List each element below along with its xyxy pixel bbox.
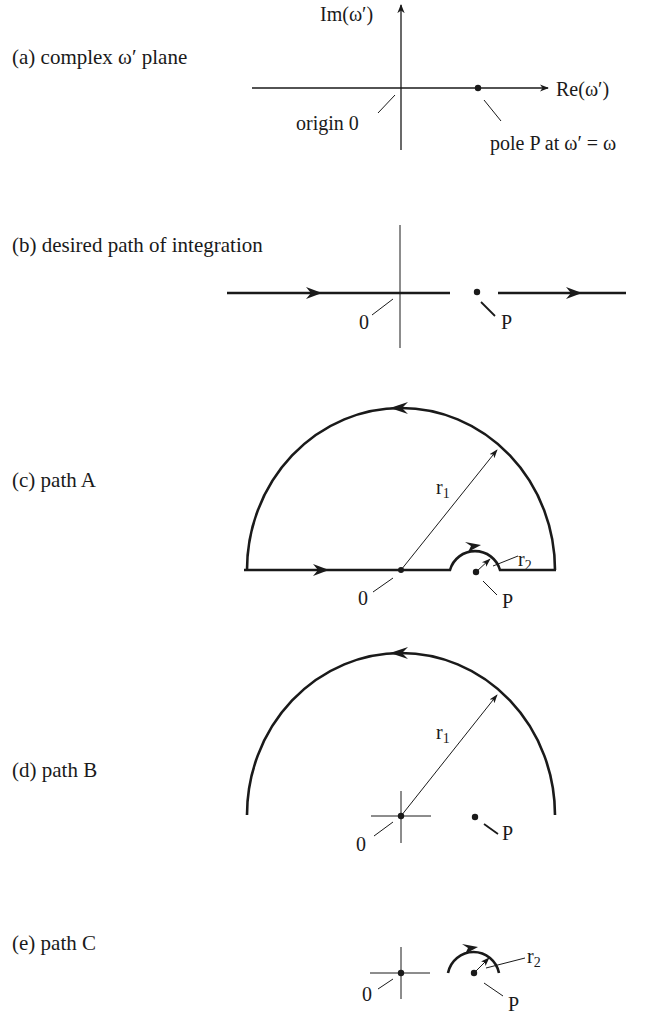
origin-label: origin 0 (296, 113, 359, 133)
panel-e-caption: (e) path C (12, 933, 96, 954)
origin-label: 0 (359, 312, 369, 332)
panel-d-caption: (d) path B (12, 760, 97, 781)
pole-pointer (483, 581, 497, 595)
panel-a-caption: (a) complex ω′ plane (12, 47, 187, 68)
pole-point (475, 85, 481, 91)
origin-label: 0 (362, 984, 372, 1004)
radius-r2-line (476, 559, 490, 572)
origin-label: 0 (358, 588, 368, 608)
r2-label: r2 (518, 549, 532, 573)
pole-pointer (484, 100, 501, 121)
origin-point (398, 970, 404, 976)
im-axis-label: Im(ω′) (320, 4, 373, 24)
origin-pointer (378, 95, 395, 113)
radius-r2-line (474, 958, 489, 973)
origin-pointer (373, 578, 393, 592)
pole-point (474, 289, 480, 295)
origin-pointer (372, 299, 393, 315)
re-axis-label: Re(ω′) (556, 79, 609, 99)
pole-label: P (502, 591, 513, 611)
large-semicircle (247, 408, 555, 570)
panel-b-path (227, 225, 626, 348)
panel-c-caption: (c) path A (12, 470, 96, 491)
panel-d-path-b (247, 647, 555, 843)
radius-r1-line (401, 695, 497, 816)
pole-pointer (484, 983, 503, 996)
r1-label: r1 (436, 722, 450, 746)
pole-pointer (481, 302, 495, 316)
panel-e-path-c (370, 944, 525, 999)
pole-point (472, 814, 478, 820)
pole-label: P (508, 994, 519, 1014)
pole-label: P (501, 312, 512, 332)
origin-pointer (378, 979, 393, 989)
origin-label: 0 (356, 834, 366, 854)
r2-label: r2 (527, 946, 541, 970)
pole-pointer (484, 824, 498, 834)
pole-label: P (502, 823, 513, 843)
r1-label: r1 (436, 477, 450, 501)
pole-label: pole P at ω′ = ω (490, 133, 616, 153)
panel-c-path-a (244, 402, 556, 595)
panel-b-caption: (b) desired path of integration (12, 235, 263, 256)
large-semicircle (247, 653, 555, 815)
origin-pointer (374, 822, 393, 836)
real-axis-path-with-indent (244, 551, 556, 570)
